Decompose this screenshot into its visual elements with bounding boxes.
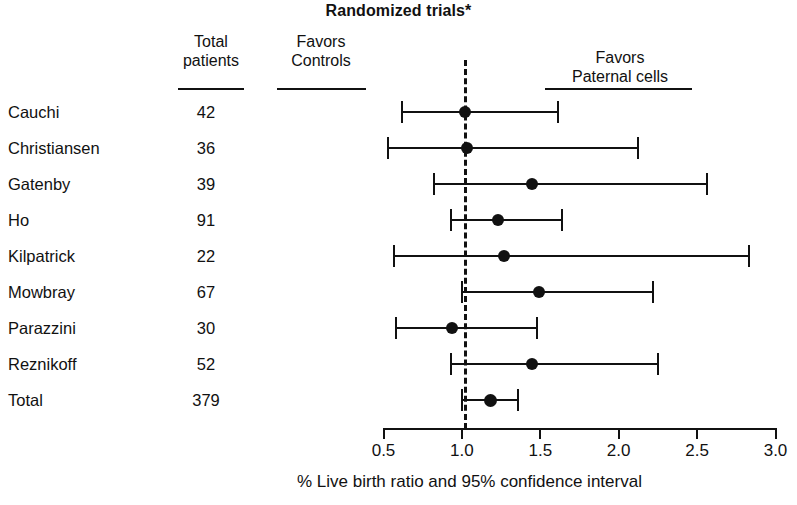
confidence-interval-upper-cap bbox=[517, 389, 519, 411]
confidence-interval-lower-cap bbox=[461, 281, 463, 303]
confidence-interval-lower-cap bbox=[401, 101, 403, 123]
x-axis-tick-label: 3.0 bbox=[746, 441, 797, 461]
confidence-interval-lower-cap bbox=[393, 245, 395, 267]
study-total-patients: 39 bbox=[160, 175, 252, 193]
confidence-interval-line bbox=[434, 183, 707, 185]
x-axis-tick-label: 2.5 bbox=[667, 441, 727, 461]
confidence-interval-upper-cap bbox=[706, 173, 708, 195]
null-effect-reference-line bbox=[464, 60, 467, 429]
confidence-interval-upper-cap bbox=[536, 317, 538, 339]
x-axis-tick bbox=[696, 428, 698, 439]
confidence-interval-lower-cap bbox=[387, 137, 389, 159]
point-estimate-marker bbox=[498, 250, 510, 262]
x-axis-tick bbox=[775, 428, 777, 439]
column-header-favors-paternal-cells-rule bbox=[545, 88, 692, 90]
study-total-patients: 379 bbox=[160, 391, 252, 409]
study-total-patients: 22 bbox=[160, 247, 252, 265]
confidence-interval-line bbox=[388, 147, 637, 149]
column-header-favors-controls: Favors Controls bbox=[262, 32, 380, 70]
confidence-interval-upper-cap bbox=[557, 101, 559, 123]
confidence-interval-upper-cap bbox=[657, 353, 659, 375]
confidence-interval-lower-cap bbox=[450, 209, 452, 231]
page-title: Randomized trials* bbox=[0, 2, 797, 20]
confidence-interval-line bbox=[451, 219, 562, 221]
point-estimate-marker bbox=[526, 358, 538, 370]
confidence-interval-lower-cap bbox=[395, 317, 397, 339]
point-estimate-marker bbox=[484, 394, 497, 407]
column-header-total-patients-rule bbox=[178, 88, 244, 90]
study-total-patients: 36 bbox=[160, 139, 252, 157]
point-estimate-marker bbox=[526, 178, 538, 190]
x-axis-tick bbox=[383, 428, 385, 439]
confidence-interval-upper-cap bbox=[561, 209, 563, 231]
x-axis-tick bbox=[539, 428, 541, 439]
x-axis-caption: % Live birth ratio and 95% confidence in… bbox=[297, 472, 797, 492]
x-axis-tick-label: 1.5 bbox=[510, 441, 570, 461]
study-total-patients: 52 bbox=[160, 355, 252, 373]
column-header-favors-paternal-cells: Favors Paternal cells bbox=[520, 48, 720, 86]
x-axis-tick bbox=[461, 428, 463, 439]
confidence-interval-line bbox=[462, 399, 518, 401]
study-total-patients: 42 bbox=[160, 103, 252, 121]
study-total-patients: 91 bbox=[160, 211, 252, 229]
x-axis-line bbox=[383, 428, 776, 430]
confidence-interval-upper-cap bbox=[652, 281, 654, 303]
x-axis-tick-label: 0.5 bbox=[354, 441, 414, 461]
confidence-interval-line bbox=[394, 255, 748, 257]
confidence-interval-line bbox=[462, 291, 653, 293]
confidence-interval-upper-cap bbox=[748, 245, 750, 267]
x-axis-tick-label: 2.0 bbox=[589, 441, 649, 461]
confidence-interval-upper-cap bbox=[637, 137, 639, 159]
confidence-interval-line bbox=[451, 363, 658, 365]
confidence-interval-line bbox=[402, 111, 557, 113]
column-header-favors-controls-rule bbox=[277, 88, 366, 90]
point-estimate-marker bbox=[533, 286, 545, 298]
study-total-patients: 30 bbox=[160, 319, 252, 337]
confidence-interval-lower-cap bbox=[433, 173, 435, 195]
point-estimate-marker bbox=[492, 214, 504, 226]
study-total-patients: 67 bbox=[160, 283, 252, 301]
point-estimate-marker bbox=[446, 322, 458, 334]
x-axis-tick bbox=[618, 428, 620, 439]
column-header-total-patients: Total patients bbox=[150, 32, 272, 70]
confidence-interval-lower-cap bbox=[450, 353, 452, 375]
confidence-interval-lower-cap bbox=[461, 389, 463, 411]
x-axis-tick-label: 1.0 bbox=[432, 441, 492, 461]
